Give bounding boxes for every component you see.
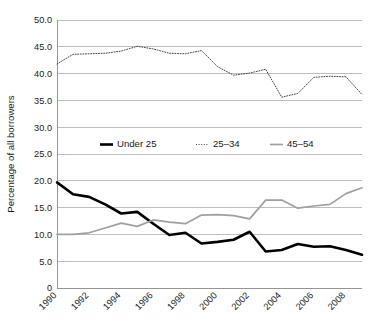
y-tick-label-25.0: 25.0 — [34, 149, 52, 159]
y-tick-label-50.0: 50.0 — [34, 15, 52, 25]
y-tick-label-10.0: 10.0 — [34, 230, 52, 240]
y-tick-label-45.0: 45.0 — [34, 42, 52, 52]
y-tick-label-30.0: 30.0 — [34, 123, 52, 133]
y-tick-label-20.0: 20.0 — [34, 176, 52, 186]
y-tick-label-40.0: 40.0 — [34, 69, 52, 79]
y-tick-label-35.0: 35.0 — [34, 96, 52, 106]
chart-svg: 05.010.015.020.025.030.035.040.045.050.0… — [0, 0, 374, 327]
line-chart: 05.010.015.020.025.030.035.040.045.050.0… — [0, 0, 374, 327]
y-axis-title: Percentage of all borrowers — [5, 95, 16, 213]
legend-label-3: 45–54 — [287, 138, 314, 149]
legend-label-1: Under 25 — [117, 138, 156, 149]
y-tick-label-15.0: 15.0 — [34, 203, 52, 213]
legend-label-2: 25–34 — [213, 138, 240, 149]
chart-background — [0, 0, 374, 327]
y-tick-label-5.0: 5.0 — [39, 257, 52, 267]
